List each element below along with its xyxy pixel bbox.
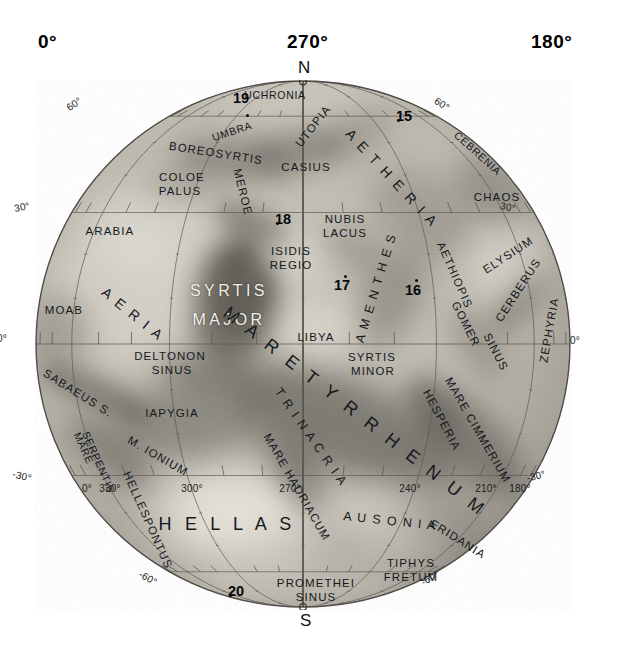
longitude-header-center: 270°	[287, 31, 328, 53]
latitude-label-30deg: 30°	[13, 200, 31, 214]
latitude-label-0deg: 0°	[0, 333, 7, 344]
longitude-header-left: 0°	[38, 31, 57, 53]
longitude-header-right: 180°	[531, 31, 572, 53]
mars-globe	[34, 80, 572, 610]
globe-svg	[34, 80, 572, 610]
south-pole-label: S	[300, 611, 311, 631]
mars-map-root: 0° 270° 180° N S	[0, 0, 619, 649]
latitude-label-minus30deg: -30°	[11, 468, 32, 483]
north-pole-label: N	[298, 58, 310, 78]
